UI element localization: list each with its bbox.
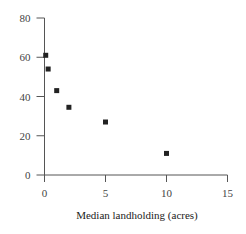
data-point <box>54 88 59 93</box>
x-axis-title: Median landholding (acres) <box>76 209 198 222</box>
axes: 020406080051015 <box>20 12 234 199</box>
data-point <box>103 120 108 125</box>
x-tick-label: 5 <box>103 187 109 199</box>
scatter-chart: 020406080051015 Median landholding (acre… <box>0 0 246 234</box>
y-tick-label: 60 <box>20 51 32 63</box>
data-point <box>66 105 71 110</box>
y-tick-label: 40 <box>20 91 32 103</box>
y-tick-label: 20 <box>20 130 32 142</box>
x-tick-label: 10 <box>161 187 173 199</box>
data-points <box>43 53 169 156</box>
x-tick-label: 0 <box>42 187 48 199</box>
data-point <box>43 53 48 58</box>
data-point <box>46 67 51 72</box>
x-tick-label: 15 <box>222 187 234 199</box>
data-point <box>164 151 169 156</box>
y-tick-label: 0 <box>25 169 31 181</box>
y-tick-label: 80 <box>20 12 32 24</box>
